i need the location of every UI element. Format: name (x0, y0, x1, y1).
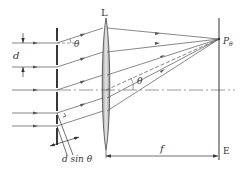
slit-spacing-label: d (13, 50, 19, 61)
point-subscript: θ (229, 40, 233, 47)
focal-length-label: f (159, 143, 166, 154)
focus-point (218, 38, 220, 40)
axis-angle-arc (131, 78, 133, 90)
path-difference-text: d sin θ (62, 154, 93, 164)
diffraction-diagram: d θ d sin θ L (0, 0, 240, 177)
path-difference-label: d sin θ (62, 154, 93, 164)
lens-label: L (101, 7, 108, 18)
point-label: Pθ (222, 36, 233, 47)
diagram-canvas: d θ d sin θ L (0, 0, 240, 177)
screen-label: E (223, 146, 230, 156)
converging-rays (106, 28, 219, 111)
top-angle-label: θ (74, 39, 80, 49)
axis-angle-label: θ (137, 76, 143, 86)
lens (102, 18, 110, 158)
path-difference-construction (50, 113, 79, 155)
